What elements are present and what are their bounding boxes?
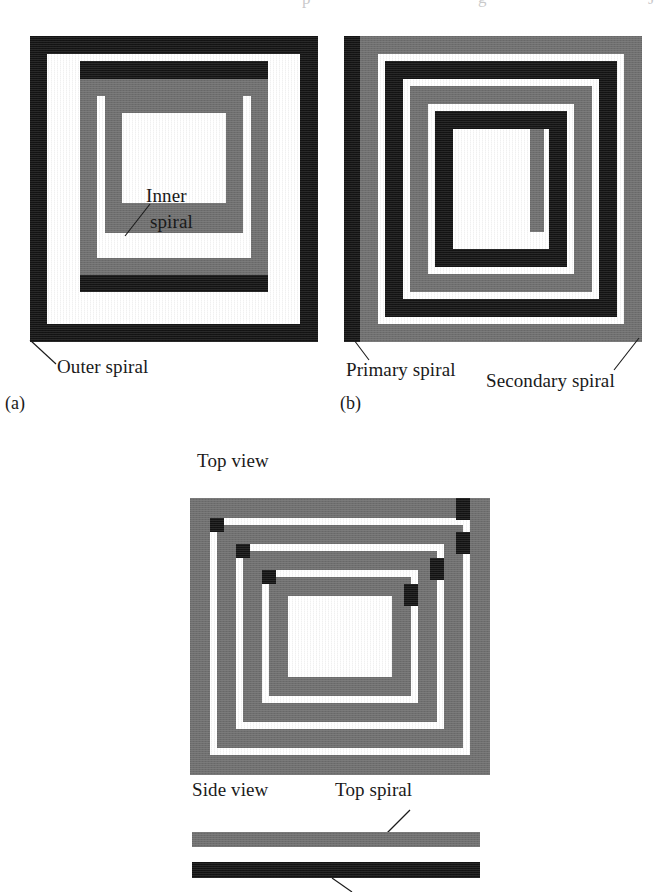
panel-a-inner-frame-2-top	[105, 96, 243, 113]
panel-b-secondary-frame-1-right	[624, 36, 642, 342]
panel-b-secondary-frame-1-top	[360, 36, 642, 54]
panel-c-frame-4-bottom	[269, 677, 411, 696]
panel-a-inner-turn-1-left	[80, 79, 97, 275]
panel-c-frame-3-left	[243, 551, 262, 722]
panel-c-frame-2-left	[217, 525, 236, 748]
paper-grain-side-bottom	[192, 862, 480, 878]
panel-b-secondary-frame-2-right	[574, 86, 592, 292]
panel-b-secondary-frame-2-top	[410, 86, 592, 104]
panel-c-via-1	[210, 518, 224, 532]
panel-c-frame-2-right	[444, 525, 463, 748]
panel-a-inner-frame-1-bottom	[80, 258, 268, 275]
panel-c-via-3	[262, 570, 276, 584]
panel-b-primary-frame-2-right	[549, 111, 567, 267]
panel-a: Inner spiral Outer spiral (a)	[0, 0, 330, 420]
panel-b-primary-frame-1-right	[599, 61, 617, 317]
panel-b-primary-frame-2-left	[435, 111, 453, 267]
panel-b-primary-frame-2-bottom	[435, 249, 567, 267]
panel-b-secondary-terminal	[530, 129, 544, 232]
panel-b-primary-frame-1-bottom	[385, 299, 617, 317]
panel-a-outer-turn-2b-top	[80, 61, 268, 79]
panel-c-side-view-bottom-bar	[192, 862, 480, 878]
panel-c-side-view-label: Side view	[192, 780, 268, 800]
panel-b-secondary-frame-1-bottom	[360, 324, 642, 342]
panel-b-secondary-spiral-leader	[610, 336, 642, 374]
panel-c-via-7	[404, 584, 418, 606]
panel-a-inner-turn-1-right	[251, 79, 268, 275]
panel-c-top-spiral-label: Top spiral	[335, 780, 412, 800]
panel-a-outer-turn-1-bottom	[30, 324, 318, 342]
panel-c-frame-2-top	[217, 525, 463, 544]
panel-a-outer-turn-2-top	[55, 36, 293, 54]
panel-c-bottom-spiral-leader	[330, 878, 364, 892]
panel-b-artwork	[344, 36, 642, 342]
panel-c-frame-2-bottom	[217, 729, 463, 748]
panel-a-outer-turn-1-left	[30, 36, 47, 342]
panel-c-frame-1-bottom	[190, 755, 490, 775]
panel-c-frame-4-top	[269, 577, 411, 596]
paper-grain-side-top	[192, 832, 480, 847]
panel-c: Top view	[0, 430, 658, 889]
panel-b-primary-spiral-label: Primary spiral	[346, 360, 456, 380]
panel-b-primary-frame-2-top	[435, 111, 567, 129]
panel-a-inner-frame-1-top	[80, 79, 268, 96]
panel-a-inner-spiral-leader	[118, 198, 158, 242]
panel-c-frame-1-right	[470, 498, 490, 775]
panel-b-letter: (b)	[340, 393, 361, 414]
panel-a-letter: (a)	[5, 393, 25, 414]
panel-c-top-view-label: Top view	[197, 451, 269, 471]
panel-a-inner-frame-2-right	[226, 96, 243, 233]
panel-c-frame-1-left	[190, 498, 210, 775]
panel-c-frame-1-top	[190, 498, 490, 518]
panel-b-primary-frame-1-top	[385, 61, 617, 79]
panel-c-via-5	[456, 532, 470, 554]
panel-b-primary-lead	[344, 36, 360, 342]
panel-c-side-view-top-bar	[192, 832, 480, 847]
panel-c-frame-3-bottom	[243, 703, 437, 722]
panel-b-secondary-spiral-label: Secondary spiral	[486, 371, 615, 391]
panel-c-top-view-artwork	[190, 498, 490, 775]
panel-b-secondary-frame-1-left	[360, 36, 378, 342]
panel-c-frame-3-top	[243, 551, 437, 570]
panel-c-via-4	[456, 498, 470, 520]
panel-a-outer-turn-1-right	[300, 36, 318, 342]
panel-b-secondary-frame-2-bottom	[410, 274, 592, 292]
panel-b-primary-frame-1-left	[385, 61, 403, 317]
panel-b-secondary-frame-2-left	[410, 86, 428, 292]
panel-a-outer-spiral-label: Outer spiral	[57, 357, 148, 377]
panel-c-via-6	[430, 558, 444, 580]
panel-c-core-white	[288, 596, 392, 677]
panel-b: Primary spiral Secondary spiral (b)	[330, 0, 658, 420]
panel-a-outer-turn-2b-bottom	[80, 275, 268, 292]
panel-c-via-2	[236, 544, 250, 558]
